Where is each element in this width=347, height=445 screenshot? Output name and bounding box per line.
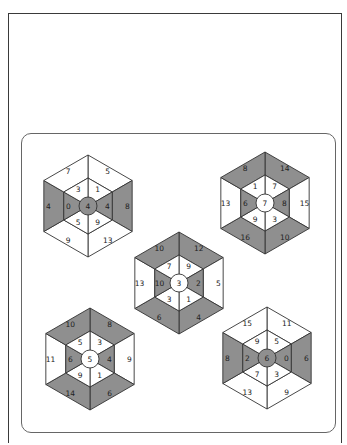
outer-number: 8 — [243, 164, 248, 173]
inner-number: 3 — [97, 338, 102, 347]
hexagon-puzzles: 5184139954073414715810316913681712952416… — [0, 0, 347, 445]
outer-number: 9 — [127, 355, 132, 364]
inner-number: 1 — [97, 371, 102, 380]
inner-number: 5 — [274, 337, 279, 346]
center-number: 3 — [177, 279, 182, 288]
outer-number: 4 — [46, 202, 51, 211]
outer-number: 8 — [225, 354, 230, 363]
inner-number: 4 — [105, 202, 110, 211]
outer-number: 11 — [282, 319, 292, 328]
hexagon-puzzle-top-right: 147158103169136817 — [221, 152, 310, 254]
inner-number: 0 — [284, 354, 289, 363]
hexagon-puzzle-top-left: 51841399540734 — [44, 155, 132, 257]
outer-number: 9 — [284, 388, 289, 397]
outer-number: 4 — [196, 313, 201, 322]
inner-number: 7 — [255, 370, 260, 379]
inner-number: 3 — [167, 295, 172, 304]
inner-number: 7 — [272, 182, 277, 191]
inner-number: 9 — [78, 371, 83, 380]
inner-number: 9 — [253, 215, 258, 224]
inner-number: 9 — [95, 218, 100, 227]
outer-number: 5 — [105, 167, 110, 176]
outer-number: 8 — [125, 202, 130, 211]
inner-number: 6 — [68, 355, 73, 364]
inner-number: 1 — [253, 182, 258, 191]
outer-number: 7 — [66, 167, 71, 176]
center-number: 7 — [263, 199, 268, 208]
hexagon-puzzle-bottom-right: 1156093137821596 — [223, 307, 311, 409]
outer-number: 10 — [154, 244, 164, 253]
outer-number: 14 — [280, 164, 290, 173]
inner-number: 10 — [155, 279, 165, 288]
outer-number: 10 — [280, 233, 290, 242]
outer-number: 10 — [65, 320, 75, 329]
inner-number: 1 — [95, 185, 100, 194]
inner-number: 7 — [167, 262, 172, 271]
inner-number: 0 — [66, 202, 71, 211]
center-number: 6 — [265, 354, 270, 363]
outer-number: 15 — [242, 319, 252, 328]
outer-number: 9 — [66, 236, 71, 245]
hexagon-puzzle-middle: 12952416313101073 — [135, 232, 223, 334]
inner-number: 6 — [243, 199, 248, 208]
inner-number: 5 — [78, 338, 83, 347]
outer-number: 15 — [300, 199, 310, 208]
inner-number: 2 — [245, 354, 250, 363]
outer-number: 6 — [157, 313, 162, 322]
outer-number: 12 — [194, 244, 204, 253]
center-number: 5 — [88, 355, 93, 364]
hexagon-puzzle-bottom-left: 8394611491161055 — [46, 308, 134, 410]
outer-number: 16 — [240, 233, 250, 242]
outer-number: 13 — [221, 199, 231, 208]
inner-number: 5 — [76, 218, 81, 227]
outer-number: 6 — [107, 389, 112, 398]
inner-number: 3 — [76, 185, 81, 194]
outer-number: 11 — [46, 355, 56, 364]
outer-number: 8 — [107, 320, 112, 329]
inner-number: 8 — [282, 199, 287, 208]
inner-number: 2 — [196, 279, 201, 288]
inner-number: 1 — [186, 295, 191, 304]
outer-number: 13 — [242, 388, 252, 397]
outer-number: 13 — [103, 236, 113, 245]
center-number: 4 — [86, 202, 91, 211]
inner-number: 3 — [274, 370, 279, 379]
outer-number: 5 — [216, 279, 221, 288]
outer-number: 6 — [304, 354, 309, 363]
outer-number: 14 — [65, 389, 75, 398]
outer-number: 13 — [135, 279, 145, 288]
inner-number: 9 — [255, 337, 260, 346]
inner-number: 4 — [107, 355, 112, 364]
inner-number: 9 — [186, 262, 191, 271]
inner-number: 3 — [272, 215, 277, 224]
